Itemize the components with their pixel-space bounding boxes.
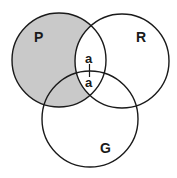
label-a-bottom: a: [85, 75, 93, 90]
label-p: P: [34, 29, 43, 45]
label-g: G: [100, 140, 111, 156]
venn-diagram: P R G a a: [0, 0, 177, 178]
label-r: R: [136, 29, 146, 45]
label-a-top: a: [85, 51, 93, 66]
